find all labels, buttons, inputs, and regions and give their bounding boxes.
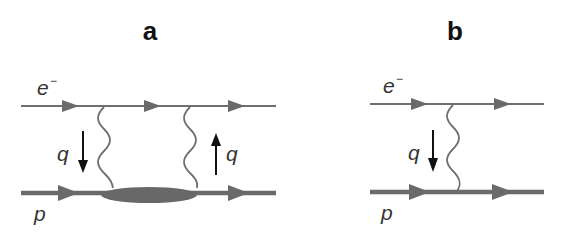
panel-a-electron-arrow-3 bbox=[228, 100, 245, 112]
panel-b-electron-arrow-2 bbox=[494, 98, 511, 110]
panel-a-electron-arrow-1 bbox=[62, 100, 79, 112]
panel-a-momentum-arrowhead-up bbox=[211, 133, 221, 146]
panel-a-electron-charge: − bbox=[50, 74, 57, 88]
panel-b-electron-charge: − bbox=[396, 72, 403, 86]
panel-a-momentum-arrowhead-down bbox=[78, 160, 88, 173]
panel-b-proton-arrow-2 bbox=[492, 184, 513, 200]
panel-b-label: b bbox=[447, 16, 463, 46]
panel-a-label: a bbox=[143, 16, 158, 46]
panel-b-electron-arrow-1 bbox=[411, 98, 428, 110]
panel-a-momentum-label-1: q bbox=[57, 142, 69, 165]
panel-b-proton-label: p bbox=[380, 201, 393, 224]
panel-a-momentum-label-2: q bbox=[226, 142, 238, 165]
panel-a-proton-arrow-2 bbox=[228, 185, 249, 201]
panel-a-electron-label: e bbox=[37, 76, 49, 99]
panel-b-momentum-arrowhead-down bbox=[428, 158, 438, 172]
panel-a: a e − p q q bbox=[21, 16, 276, 225]
panel-a-electron-arrow-2 bbox=[144, 100, 161, 112]
panel-a-proton-arrow-1 bbox=[58, 185, 79, 201]
panel-a-photon-1 bbox=[98, 107, 113, 188]
feynman-diagrams: a e − p q q b e − bbox=[0, 0, 571, 240]
panel-b-electron-label: e bbox=[383, 74, 395, 97]
panel-a-proton-label: p bbox=[33, 202, 46, 225]
panel-b-photon bbox=[447, 105, 460, 191]
panel-b: b e − p q bbox=[370, 16, 544, 224]
panel-a-photon-2 bbox=[184, 107, 197, 188]
panel-b-proton-arrow-1 bbox=[409, 184, 430, 200]
panel-a-hadronic-blob bbox=[101, 187, 197, 203]
panel-b-momentum-label: q bbox=[408, 141, 420, 164]
